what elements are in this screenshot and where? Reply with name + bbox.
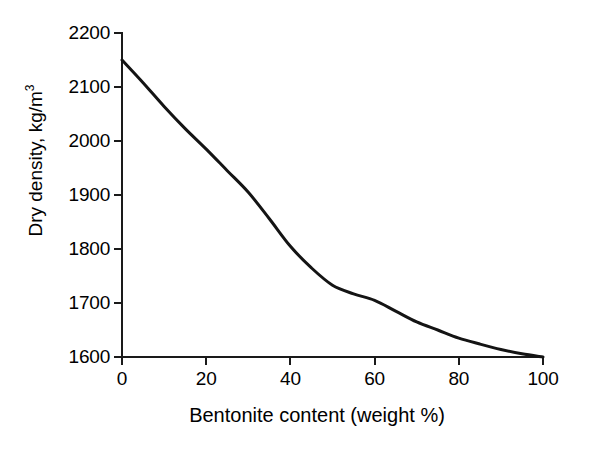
- chart-figure: 1600170018001900200021002200 02040608010…: [0, 0, 594, 451]
- data-series-line: [122, 60, 543, 357]
- plot-canvas: [0, 0, 594, 451]
